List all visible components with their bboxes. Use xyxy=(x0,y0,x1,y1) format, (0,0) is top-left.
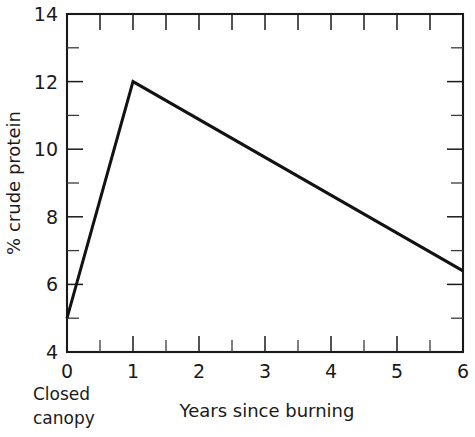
crude-protein-line-chart: 14 12 10 8 6 4 xyxy=(0,0,475,437)
x-axis-title: Years since burning xyxy=(179,400,355,421)
x-tick-label-2: 2 xyxy=(193,360,205,382)
x-tick-label-5: 5 xyxy=(391,360,403,382)
x-tick-label-0: 0 xyxy=(61,360,73,382)
y-tick-label-4: 4 xyxy=(46,341,58,363)
x-tick-label-1: 1 xyxy=(127,360,139,382)
y-tick-label-10: 10 xyxy=(34,138,58,160)
y-tick-label-14: 14 xyxy=(34,3,58,25)
y-tick-label-6: 6 xyxy=(46,273,58,295)
y-tick-label-8: 8 xyxy=(46,206,58,228)
y-axis-title: % crude protein xyxy=(3,111,24,255)
closed-canopy-label-line2: canopy xyxy=(33,408,95,428)
x-tick-label-6: 6 xyxy=(457,360,469,382)
closed-canopy-label-line1: Closed xyxy=(33,384,90,404)
y-tick-label-12: 12 xyxy=(34,71,58,93)
x-tick-label-4: 4 xyxy=(325,360,337,382)
x-tick-label-3: 3 xyxy=(259,360,271,382)
